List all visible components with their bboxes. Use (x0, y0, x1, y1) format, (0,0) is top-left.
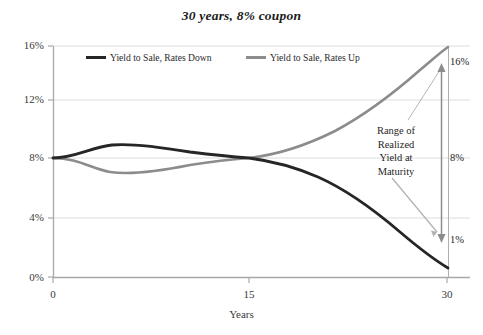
leader-line-lower (392, 178, 437, 232)
legend-item-rates-down[interactable]: Yield to Sale, Rates Down (86, 52, 212, 63)
legend-label-rates-down: Yield to Sale, Rates Down (110, 52, 212, 63)
y-tick-label-0: 0% (4, 271, 44, 283)
chart-container: 30 years, 8% coupon (0, 0, 483, 335)
range-value-label-bottom: 1% (450, 234, 464, 245)
range-value-label-mid: 8% (450, 152, 464, 163)
range-annotation-line-2: Realized (368, 138, 424, 152)
x-tick-label-30: 30 (427, 288, 467, 300)
range-annotation-text: Range of Realized Yield at Maturity (368, 124, 424, 178)
y-tick-label-8: 8% (4, 151, 44, 163)
range-annotation-line-4: Maturity (368, 165, 424, 179)
range-arrowhead-top (438, 63, 446, 72)
legend-item-rates-up[interactable]: Yield to Sale, Rates Up (246, 52, 360, 63)
legend-swatch-rates-down (86, 56, 106, 59)
x-tick-label-15: 15 (229, 288, 269, 300)
range-value-label-top: 16% (450, 56, 469, 67)
range-double-arrow (438, 63, 446, 243)
range-annotation-line-1: Range of (368, 124, 424, 138)
legend-label-rates-up: Yield to Sale, Rates Up (270, 52, 360, 63)
range-annotation-line-3: Yield at (368, 151, 424, 165)
y-tick-label-12: 12% (4, 93, 44, 105)
x-tick-label-0: 0 (33, 288, 73, 300)
y-tick-label-4: 4% (4, 211, 44, 223)
range-arrowhead-bottom (438, 234, 446, 243)
y-tick-label-16: 16% (4, 39, 44, 51)
legend-swatch-rates-up (246, 56, 266, 59)
x-axis-title: Years (0, 308, 483, 320)
